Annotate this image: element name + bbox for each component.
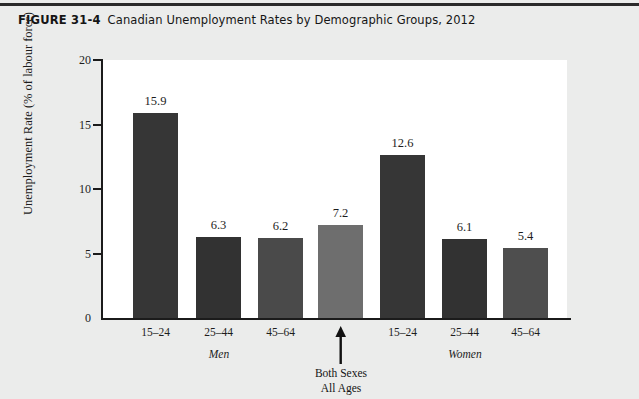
both-sexes-callout: Both SexesAll Ages — [271, 366, 411, 395]
x-axis-group-label: Women — [405, 348, 525, 360]
y-tick-label: 0 — [51, 311, 91, 326]
bar-value-label: 7.2 — [306, 206, 375, 221]
callout-line-1: Both Sexes — [271, 366, 411, 381]
x-axis-category-label: 45–64 — [238, 326, 323, 338]
bar-value-label: 6.1 — [430, 220, 499, 235]
y-axis-tick-labels: 05101520 — [45, 0, 91, 399]
x-axis-group-label: Men — [159, 348, 279, 360]
bar — [196, 237, 241, 318]
bar-value-label: 5.4 — [491, 229, 560, 244]
y-tick-mark — [93, 253, 101, 255]
figure-container: FIGURE 31-4Canadian Unemployment Rates b… — [0, 0, 639, 399]
bar — [258, 238, 303, 318]
y-tick-label: 5 — [51, 246, 91, 261]
bar-value-label: 15.9 — [121, 94, 190, 109]
figure-title-text: Canadian Unemployment Rates by Demograph… — [108, 13, 476, 27]
y-axis-title: Unemployment Rate (% of labour force) — [21, 0, 36, 259]
y-tick-mark — [93, 124, 101, 126]
bar-value-label: 6.2 — [246, 219, 315, 234]
y-tick-label: 20 — [51, 53, 91, 68]
up-arrow-icon — [333, 326, 349, 364]
x-axis-category-label: 45–64 — [483, 326, 568, 338]
y-tick-label: 15 — [51, 117, 91, 132]
bar — [380, 155, 425, 318]
callout-line-2: All Ages — [271, 381, 411, 396]
y-tick-label: 10 — [51, 182, 91, 197]
bar-value-label: 12.6 — [368, 136, 437, 151]
bar — [318, 225, 363, 318]
y-tick-mark — [93, 59, 101, 61]
figure-top-rule — [0, 3, 639, 6]
bar — [503, 248, 548, 318]
x-axis-line — [101, 318, 571, 320]
bar-value-label: 6.3 — [184, 218, 253, 233]
y-tick-mark — [93, 188, 101, 190]
bar — [442, 239, 487, 318]
bar — [133, 113, 178, 318]
